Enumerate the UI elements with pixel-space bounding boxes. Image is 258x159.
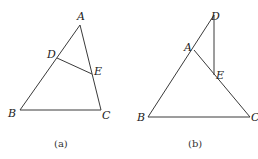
point-label-e: E — [215, 69, 224, 82]
point-label-c: C — [251, 111, 258, 124]
point-label-b: B — [136, 111, 145, 124]
segment-ab — [20, 25, 80, 110]
point-label-c: C — [102, 109, 111, 122]
point-label-d: D — [46, 48, 56, 61]
segment-db — [148, 15, 214, 117]
point-label-a: A — [76, 10, 85, 23]
segment-ca — [194, 50, 250, 117]
figure-caption-a: (a) — [54, 138, 68, 149]
point-label-b: B — [7, 107, 16, 120]
point-label-e: E — [93, 65, 102, 78]
figure-a: A B C D E (a) — [7, 10, 111, 149]
point-label-a: A — [183, 41, 192, 54]
figure-b: D A E B C (b) — [136, 10, 258, 149]
segment-de — [57, 58, 92, 74]
point-label-d: D — [210, 10, 220, 23]
geometry-diagram: A B C D E (a) D A E B C (b) — [0, 0, 258, 159]
figure-caption-b: (b) — [188, 138, 202, 149]
